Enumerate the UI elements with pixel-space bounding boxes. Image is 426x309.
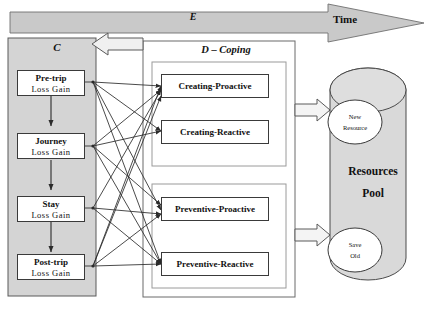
- stage-subtitle: Loss Gain: [18, 147, 84, 158]
- stage-title: Journey: [18, 136, 84, 147]
- resources-pool-title: Resources Pool: [336, 160, 410, 204]
- stage-box-post-trip[interactable]: Post-trip Loss Gain: [17, 254, 85, 280]
- coping-panel-label: D – Coping: [178, 44, 274, 55]
- coping-box-label: Preventive-Reactive: [177, 259, 254, 269]
- stage-box-stay[interactable]: Stay Loss Gain: [17, 196, 85, 222]
- feedback-block-arrow: [92, 33, 143, 55]
- pool-node-line2: Resource: [326, 122, 384, 133]
- stage-box-pre-trip[interactable]: Pre-trip Loss Gain: [17, 70, 85, 96]
- pool-node-line1: New: [326, 111, 384, 122]
- coping-box-creating-proactive[interactable]: Creating-Proactive: [161, 74, 269, 98]
- coping-box-label: Creating-Reactive: [180, 127, 250, 137]
- stage-title: Post-trip: [18, 257, 84, 268]
- resources-pool-title-line1: Resources: [336, 160, 410, 182]
- diagram-canvas: E Time C Pre-trip Loss Gain Journey Loss…: [0, 0, 426, 309]
- stage-box-journey[interactable]: Journey Loss Gain: [17, 133, 85, 159]
- coping-box-label: Preventive-Proactive: [175, 204, 255, 214]
- stage-subtitle: Loss Gain: [18, 210, 84, 221]
- time-axis-label: Time: [322, 14, 368, 26]
- coping-box-preventive-reactive[interactable]: Preventive-Reactive: [161, 252, 269, 276]
- coping-box-creating-reactive[interactable]: Creating-Reactive: [161, 120, 269, 144]
- pool-node-line1: Save: [326, 239, 384, 250]
- time-axis-e-label: E: [178, 12, 208, 23]
- stage-title: Pre-trip: [18, 73, 84, 84]
- pool-node-line2: Old: [326, 250, 384, 261]
- pool-node-new-resource[interactable]: New Resource: [326, 111, 384, 133]
- coping-to-pool-arrow-bottom: [295, 224, 330, 246]
- stage-subtitle: Loss Gain: [18, 84, 84, 95]
- coping-box-label: Creating-Proactive: [178, 81, 251, 91]
- stage-subtitle: Loss Gain: [18, 268, 84, 279]
- resources-pool-title-line2: Pool: [336, 182, 410, 204]
- coping-to-pool-arrow-top: [295, 99, 330, 121]
- stage-title: Stay: [18, 199, 84, 210]
- pool-node-save-old[interactable]: Save Old: [326, 239, 384, 261]
- stress-panel-label: C: [40, 42, 74, 54]
- coping-box-preventive-proactive[interactable]: Preventive-Proactive: [161, 197, 269, 221]
